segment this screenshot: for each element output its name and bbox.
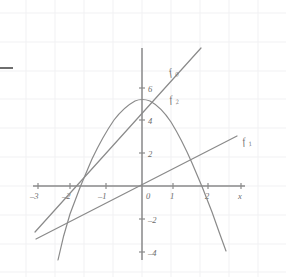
xtick-label-neg2: –2	[61, 191, 71, 201]
ytick-label-neg4: –4	[147, 248, 157, 258]
xtick-label-neg1: –1	[97, 191, 107, 201]
ytick-label-neg2: –2	[147, 215, 157, 225]
xtick-label-1: 1	[170, 191, 174, 201]
graph-figure: –3 –2 –1 0 1 2 x 6 4 2 –2 –4 f 0 f 2 f	[0, 0, 286, 277]
coordinate-plot: –3 –2 –1 0 1 2 x 6 4 2 –2 –4 f 0 f 2 f	[0, 0, 286, 277]
xtick-label-neg3: –3	[29, 191, 39, 201]
x-axis-label: x	[237, 191, 242, 201]
